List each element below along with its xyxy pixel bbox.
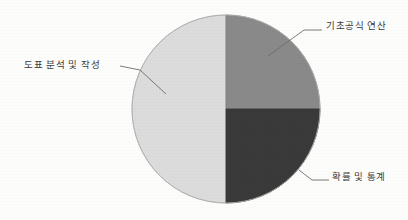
pie-label-basic-formula: 기초공식 연산 (326, 21, 387, 31)
pie-label-chart-analysis: 도표 분석 및 작성 (24, 60, 100, 70)
pie-slice-probability-statistics[interactable] (226, 109, 320, 203)
pie-label-probability-statistics: 확률 및 통계 (332, 172, 386, 182)
pie-chart-graphic (0, 0, 408, 220)
pie-slice-basic-formula[interactable] (226, 15, 320, 109)
pie-slice-chart-analysis[interactable] (132, 15, 226, 203)
leader-line-probability-statistics (299, 170, 329, 180)
pie-chart-figure: 기초공식 연산 도표 분석 및 작성 확률 및 통계 (0, 0, 408, 220)
